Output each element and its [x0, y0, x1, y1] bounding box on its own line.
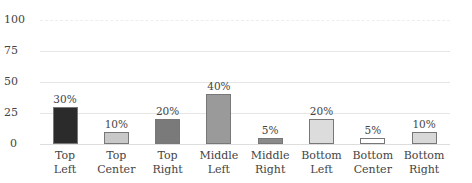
bar-bottom-right	[412, 132, 437, 144]
value-label: 20%	[297, 105, 347, 117]
bar-bottom-center	[360, 138, 385, 144]
bar-top-center	[104, 132, 129, 144]
value-label: 30%	[40, 93, 90, 105]
value-label: 20%	[143, 105, 193, 117]
x-tick-label: BottomRight	[394, 149, 454, 177]
value-label: 10%	[399, 118, 449, 130]
value-label: 5%	[348, 124, 398, 136]
y-tick-75: 75	[0, 44, 42, 57]
bar-chart: 100 75 50 25 0 30%TopLeft10%TopCenter20%…	[0, 0, 472, 183]
gridline-50	[40, 82, 450, 83]
value-label: 10%	[91, 118, 141, 130]
bar-top-right	[155, 119, 180, 144]
y-tick-50: 50	[0, 75, 42, 88]
y-tick-25: 25	[0, 106, 42, 119]
bar-bottom-left	[309, 119, 334, 144]
bar-middle-left	[206, 94, 231, 144]
baseline-0	[40, 144, 450, 145]
gridline-75	[40, 51, 450, 52]
value-label: 40%	[194, 80, 244, 92]
bar-middle-right	[258, 138, 283, 144]
gridline-25	[40, 113, 450, 114]
value-label: 5%	[245, 124, 295, 136]
bar-top-left	[53, 107, 78, 144]
gridline-100	[40, 20, 450, 21]
y-tick-100: 100	[0, 13, 42, 26]
